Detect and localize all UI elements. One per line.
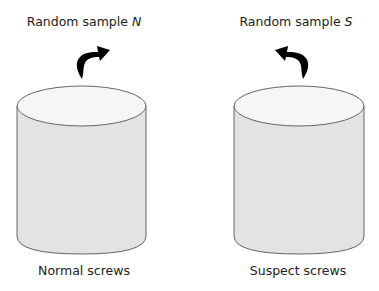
suspect-screws-label: Suspect screws	[250, 263, 346, 278]
suspect-screws-container	[234, 86, 364, 254]
sample-variable: N	[132, 14, 141, 29]
random-sample-s-label: Random sample S	[239, 14, 352, 29]
arrow-up-left-icon	[275, 46, 308, 79]
normal-screws-label: Normal screws	[38, 263, 130, 278]
sample-label-text: Random sample	[239, 14, 344, 29]
sample-variable: S	[345, 14, 353, 29]
diagram-canvas	[0, 0, 379, 291]
random-sample-n-label: Random sample N	[27, 14, 142, 29]
normal-screws-container	[17, 86, 146, 254]
sample-label-text: Random sample	[27, 14, 132, 29]
arrow-up-right-icon	[77, 46, 110, 79]
